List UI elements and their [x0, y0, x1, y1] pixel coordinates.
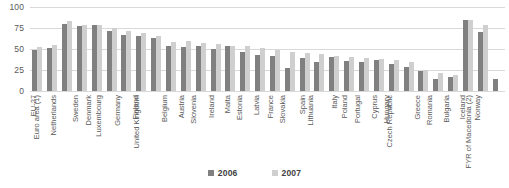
legend-swatch-icon [272, 170, 278, 176]
x-axis-tick: Norway [475, 93, 490, 165]
legend-item-2006[interactable]: 2006 [208, 168, 238, 178]
bar-2007 [201, 43, 206, 91]
x-axis-tick: Slovakia [282, 93, 297, 165]
bar-2007 [453, 75, 458, 91]
x-axis-tick-label: Slovakia [279, 67, 287, 95]
x-axis-tick-label: Bulgaria [443, 67, 451, 95]
chart-legend: 20062007 [0, 168, 509, 178]
bar-2007 [364, 58, 369, 91]
x-axis-tick-label: Norway [474, 70, 482, 95]
y-axis-tick-label: 0 [19, 86, 24, 96]
x-axis-tick-label: Italy [331, 81, 339, 95]
x-axis-tick-label: Netherlands [50, 55, 58, 95]
x-axis-tick-label: France [267, 72, 275, 95]
x-axis-tick-label: Malta [225, 77, 233, 95]
x-axis-tick-label: United Kingdom [133, 42, 141, 95]
bar-2006 [493, 79, 498, 91]
x-axis-tick-label: Czech Republic [386, 42, 394, 95]
y-axis: 1007550250 [0, 0, 28, 98]
x-axis-tick-label: Latvia [254, 75, 262, 95]
x-axis-tick-label: Lithuania [308, 65, 316, 95]
x-axis-tick-label: Portugal [354, 67, 362, 95]
bar-2007 [141, 33, 146, 91]
x-axis-tick: FYR of Macedonia (2) [490, 93, 505, 165]
bar-2007 [290, 52, 295, 91]
x-axis-tick-label: Austria [178, 72, 186, 95]
x-axis-tick-label: FYR of Macedonia (2) [464, 22, 472, 95]
x-axis-tick-label: Ireland [208, 72, 216, 95]
bar-2007 [483, 25, 488, 91]
legend-label: 2007 [282, 168, 302, 178]
x-axis-tick: Ireland [208, 93, 223, 165]
x-axis-tick-label: Belgium [161, 68, 169, 95]
x-axis-tick-label: Spain [299, 76, 307, 95]
legend-label: 2006 [218, 168, 238, 178]
x-axis-tick-label: Romania [427, 65, 435, 95]
y-axis-tick-label: 75 [14, 23, 24, 33]
x-axis-tick-label: Sweden [72, 68, 80, 95]
x-axis-tick: Slovenia [193, 93, 208, 165]
bar-2007 [126, 31, 131, 91]
bar-2007 [394, 60, 399, 91]
x-axis-tick: Estonia [238, 93, 253, 165]
bar-2007 [245, 46, 250, 91]
x-axis-tick-label: Denmark [85, 65, 93, 95]
x-axis: EU-27Euro area (1)NetherlandsSwedenDenma… [30, 93, 505, 165]
bar-2007 [319, 54, 324, 91]
x-axis-tick: Lithuania [312, 93, 327, 165]
x-axis-tick-label: Poland [341, 72, 349, 95]
x-axis-tick-label: Luxembourg [94, 53, 102, 95]
bar-group [490, 7, 505, 91]
bar-group [327, 7, 342, 91]
x-axis-tick-label: Greece [415, 70, 423, 95]
y-axis-tick-label: 100 [10, 2, 24, 12]
x-axis-tick-label: Euro area (1) [34, 51, 42, 95]
y-axis-tick-label: 50 [14, 44, 24, 54]
bar-chart: 1007550250 EU-27Euro area (1)Netherlands… [0, 0, 509, 188]
bar-2007 [216, 44, 221, 91]
legend-swatch-icon [208, 170, 214, 176]
x-axis-tick-label: Estonia [236, 70, 244, 95]
legend-item-2007[interactable]: 2007 [272, 168, 302, 178]
bar-2007 [409, 62, 414, 91]
x-axis-tick-label: Cyprus [370, 71, 378, 95]
y-axis-tick-label: 25 [14, 65, 24, 75]
x-axis-tick-label: Germany [115, 64, 123, 95]
x-axis-tick-label: Slovenia [190, 66, 198, 95]
bar-2007 [171, 42, 176, 91]
